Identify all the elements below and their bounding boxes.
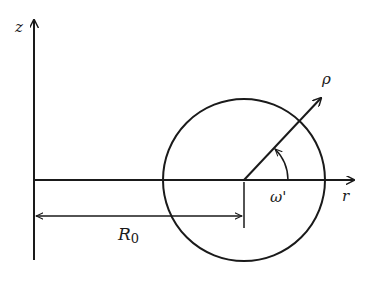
major-radius-label: R0 (117, 224, 139, 246)
angle-arc (275, 149, 288, 180)
rho-label: ρ (321, 70, 331, 88)
major-radius-subscript: 0 (131, 231, 139, 246)
r-axis-label: r (342, 187, 350, 205)
major-radius-symbol: R (117, 224, 131, 244)
torus-coordinate-diagram: z r ρ ω' R0 (0, 0, 369, 284)
rho-vector (244, 98, 321, 180)
z-axis-label: z (14, 18, 23, 36)
angle-label: ω' (270, 188, 286, 206)
